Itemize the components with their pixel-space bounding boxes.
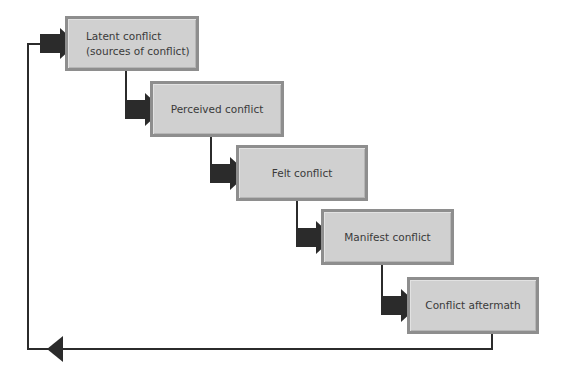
stage-conflict-aftermath: Conflict aftermath (407, 277, 539, 334)
feedback-arrowhead-icon (47, 336, 63, 362)
stage-manifest-conflict: Manifest conflict (321, 209, 454, 265)
stage-label: Felt conflict (272, 166, 333, 181)
stage-latent-conflict: Latent conflict (sources of conflict) (65, 16, 199, 71)
stage-label: Manifest conflict (344, 230, 430, 245)
stage-felt-conflict: Felt conflict (236, 145, 368, 201)
stage-label: Perceived conflict (171, 102, 264, 117)
stage-label: Latent conflict (sources of conflict) (86, 29, 190, 59)
stage-perceived-conflict: Perceived conflict (150, 81, 284, 137)
stage-label: Conflict aftermath (425, 298, 520, 313)
conflict-process-diagram: Latent conflict (sources of conflict) Pe… (0, 0, 566, 380)
